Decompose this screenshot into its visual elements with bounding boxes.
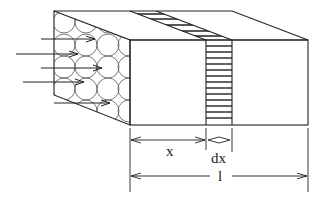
dx-dimension-arrow <box>208 137 230 143</box>
arrow-icon <box>16 51 78 57</box>
diagram-canvas: x dx l <box>0 0 324 203</box>
arrow-icon <box>41 36 95 42</box>
label-x: x <box>166 143 174 159</box>
label-l: l <box>218 168 222 184</box>
arrow-icon <box>41 65 102 71</box>
slice-dx <box>206 40 232 125</box>
slice-top <box>120 11 232 40</box>
label-dx: dx <box>211 150 227 166</box>
